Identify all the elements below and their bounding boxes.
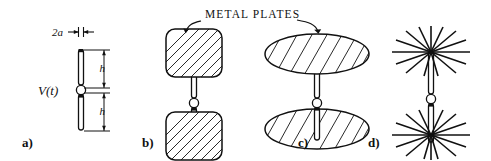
panel-c-top-plate <box>265 34 369 74</box>
antenna-configurations-figure: 2a h h V(t) a) <box>0 0 491 161</box>
panel-b-lower-feed-cap <box>192 107 197 110</box>
panel-a-height-label-bottom: h <box>100 105 106 117</box>
panel-a-h-top-arrow-down <box>102 83 106 88</box>
panel-a-radius-label: 2a <box>52 26 64 38</box>
panel-b-label: b) <box>142 135 154 150</box>
panel-a-h-bottom-arrow-down <box>102 126 106 131</box>
panel-a-upper-arm <box>79 50 84 85</box>
panel-a-width-arrow-left-head <box>74 30 79 34</box>
panel-d-lower-feed-cap <box>429 103 434 106</box>
panel-a-source-label: V(t) <box>38 83 58 98</box>
panel-c-lower-arm <box>315 108 320 140</box>
panel-c-group: c) <box>265 33 372 152</box>
panel-c-source-gap-circle <box>312 98 321 107</box>
figure-canvas: 2a h h V(t) a) <box>0 0 491 161</box>
panel-a-bottom-feed-cap <box>79 94 84 97</box>
panel-b-group: b) <box>142 29 224 161</box>
panel-a-lower-arm <box>79 95 84 130</box>
panel-a-top-cap <box>79 49 84 52</box>
panel-a-height-label-top: h <box>100 62 106 74</box>
panel-c-label: c) <box>298 135 308 150</box>
metal-plates-label: METAL PLATES <box>205 8 300 20</box>
panel-d-group: d) <box>368 26 470 160</box>
panel-c-upper-arm <box>315 72 320 98</box>
panel-b-source-gap-circle <box>189 98 198 107</box>
panel-d-label: d) <box>368 135 380 150</box>
panel-a-h-top-arrow-up <box>102 51 106 56</box>
panel-a-label: a) <box>22 135 33 150</box>
panel-a-width-arrow-right-head <box>83 30 88 34</box>
panel-a-group: 2a h h V(t) a) <box>22 26 110 150</box>
panel-a-h-bottom-arrow-up <box>102 94 106 99</box>
panel-d-source-gap-circle <box>426 94 435 103</box>
metal-plates-leader-right-head <box>314 29 321 34</box>
